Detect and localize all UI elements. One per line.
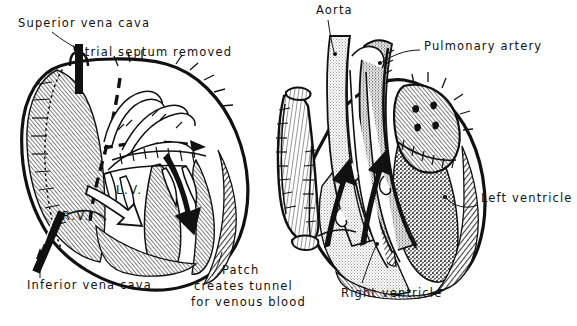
label-aorta: Aorta — [316, 3, 353, 17]
label-right-ventricle: Right ventricle — [341, 286, 442, 300]
illustration-canvas: Superior vena cava Atrial septum removed… — [0, 0, 577, 326]
leader-dot-left-ventricle — [443, 195, 447, 199]
leader-dot-right-ventricle — [375, 242, 379, 246]
leader-dot-aorta — [333, 52, 337, 56]
leader-dot-pulmonary-artery — [378, 61, 382, 65]
heart-diagram-svg: Superior vena cava Atrial septum removed… — [0, 0, 577, 326]
label-lv: L.V. — [116, 183, 143, 197]
label-inferior-vena-cava: Inferior vena cava — [27, 278, 152, 292]
baffle-lower-cuff — [292, 236, 318, 251]
baffle-cut-end — [286, 88, 311, 101]
label-pulmonary-artery: Pulmonary artery — [424, 39, 542, 53]
label-patch-line2: creates tunnel — [194, 279, 293, 293]
label-patch-line1: Patch — [222, 263, 259, 277]
label-atrial-septum-removed: Atrial septum removed — [76, 45, 232, 59]
label-patch-line3: for venous blood — [191, 295, 306, 309]
label-left-ventricle: Left ventricle — [481, 191, 573, 205]
label-rv: R.V. — [62, 209, 90, 223]
label-superior-vena-cava: Superior vena cava — [18, 16, 150, 30]
